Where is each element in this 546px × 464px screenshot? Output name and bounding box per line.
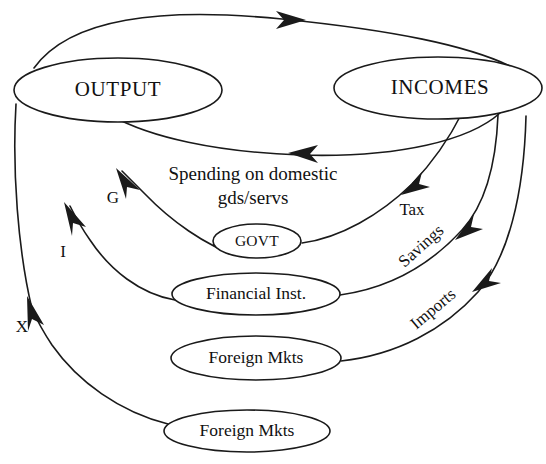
node-incomes-label: INCOMES <box>391 75 490 99</box>
node-incomes[interactable]: INCOMES <box>334 57 542 119</box>
node-financial-inst[interactable]: Financial Inst. <box>172 273 340 315</box>
arrowhead-incomes-to-output <box>288 145 318 163</box>
edge-label-g: G <box>107 188 119 207</box>
node-foreign-mkts-lower-label: Foreign Mkts <box>200 420 295 440</box>
edge-label-imports: Imports <box>407 285 460 334</box>
node-output-label: OUTPUT <box>75 77 161 101</box>
edge-incomes-to-output <box>112 113 500 163</box>
edge-path-foreign-to-output <box>32 309 168 424</box>
arrowhead-incomes-to-foreign <box>472 268 501 292</box>
edge-label-savings: Savings <box>395 221 448 271</box>
node-govt[interactable]: GOVT <box>213 224 301 258</box>
arrowhead-output-to-incomes <box>276 11 306 29</box>
edge-output-left-spine <box>15 104 32 309</box>
node-foreign-mkts-upper-label: Foreign Mkts <box>209 347 304 367</box>
edge-foreign-to-output <box>27 296 168 424</box>
arrowhead-govt-to-output <box>116 168 140 199</box>
node-output[interactable]: OUTPUT <box>14 58 222 122</box>
edge-label-spending-line2: gds/servs <box>218 187 289 208</box>
node-foreign-mkts-lower[interactable]: Foreign Mkts <box>164 410 330 452</box>
edge-label-tax: Tax <box>399 200 425 219</box>
arrowhead-incomes-to-govt <box>401 172 430 195</box>
node-foreign-mkts-upper[interactable]: Foreign Mkts <box>171 336 341 380</box>
node-financial-inst-label: Financial Inst. <box>206 283 306 303</box>
diagram-canvas: OUTPUT INCOMES GOVT Financial Inst. Fore… <box>0 0 546 464</box>
edge-financial-to-output <box>64 202 175 300</box>
edge-label-spending-line1: Spending on domestic <box>169 163 338 184</box>
edge-label-i: I <box>60 242 66 261</box>
circular-flow-diagram: OUTPUT INCOMES GOVT Financial Inst. Fore… <box>0 0 546 464</box>
edge-path-financial-to-output <box>70 206 175 300</box>
node-govt-label: GOVT <box>235 232 279 249</box>
arrowhead-incomes-to-financial <box>455 214 483 240</box>
edge-label-x: X <box>16 317 28 336</box>
arrowhead-financial-to-output <box>64 202 86 236</box>
edge-path-output-left-spine <box>15 104 32 309</box>
